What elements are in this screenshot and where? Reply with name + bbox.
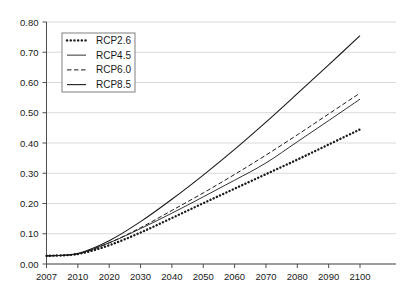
x-tick-label: 2010 — [67, 271, 88, 282]
legend-label-rcp4-5: RCP4.5 — [96, 50, 131, 61]
y-tick-label: 0.60 — [20, 77, 39, 88]
x-tick-label: 2060 — [224, 271, 245, 282]
y-tick-label: 0.40 — [20, 138, 39, 149]
y-tick-label: 0.70 — [20, 47, 39, 58]
y-tick-label: 0.00 — [20, 259, 39, 270]
y-tick-label: 0.10 — [20, 228, 39, 239]
x-tick-label: 2020 — [99, 271, 120, 282]
y-tick-label: 0.20 — [20, 198, 39, 209]
chart-background — [0, 0, 401, 304]
x-tick-label: 2040 — [161, 271, 182, 282]
legend-label-rcp6-0: RCP6.0 — [96, 64, 131, 75]
legend-label-rcp2-6: RCP2.6 — [96, 35, 131, 46]
x-tick-label: 2080 — [287, 271, 308, 282]
x-tick-label: 2030 — [130, 271, 151, 282]
chart-container: 0.000.100.200.300.400.500.600.700.80 200… — [0, 0, 401, 304]
y-tick-label: 0.50 — [20, 107, 39, 118]
x-tick-label: 2100 — [349, 271, 370, 282]
x-tick-label: 2007 — [36, 271, 57, 282]
y-tick-label: 0.30 — [20, 168, 39, 179]
legend-label-rcp8-5: RCP8.5 — [96, 79, 131, 90]
chart-legend: RCP2.6RCP4.5RCP6.0RCP8.5 — [62, 33, 135, 92]
line-chart: 0.000.100.200.300.400.500.600.700.80 200… — [0, 0, 401, 304]
x-tick-label: 2090 — [318, 271, 339, 282]
x-tick-label: 2070 — [255, 271, 276, 282]
y-axis-tick-labels: 0.000.100.200.300.400.500.600.700.80 — [20, 17, 39, 270]
x-tick-label: 2050 — [193, 271, 214, 282]
y-tick-label: 0.80 — [20, 17, 39, 28]
x-axis-tick-labels: 2007201020202030204020502060207020802090… — [36, 271, 371, 282]
